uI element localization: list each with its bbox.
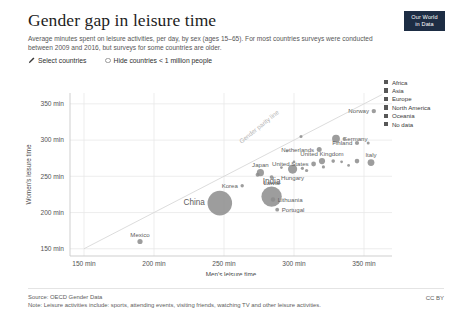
- legend-item-asia[interactable]: Asia: [384, 86, 444, 94]
- source-text: Source: OECD Gender Data: [28, 293, 428, 301]
- data-point[interactable]: [355, 141, 359, 145]
- legend-item-africa[interactable]: Africa: [384, 78, 444, 86]
- data-point[interactable]: [311, 162, 316, 167]
- data-point[interactable]: [367, 141, 370, 144]
- legend-item-oceania[interactable]: Oceania: [384, 112, 444, 120]
- legend-swatch-icon: [384, 114, 388, 118]
- note-text: Note: Leisure activities include: sports…: [28, 301, 428, 309]
- data-point[interactable]: [319, 158, 325, 164]
- data-point[interactable]: [331, 159, 335, 163]
- owid-logo-line1: Our World: [404, 14, 445, 21]
- data-point[interactable]: [208, 191, 233, 216]
- data-point-label: United States: [272, 160, 309, 167]
- data-point[interactable]: [347, 164, 350, 167]
- y-tick-label: 150 min: [41, 245, 65, 252]
- select-countries-label: Select countries: [38, 57, 86, 64]
- x-tick-label: 250 min: [212, 260, 236, 267]
- data-point[interactable]: [300, 135, 303, 138]
- x-tick-label: 300 min: [282, 260, 306, 267]
- chart-footer: Source: OECD Gender Data Note: Leisure a…: [28, 293, 428, 309]
- legend-swatch-icon: [384, 122, 388, 126]
- select-countries-button[interactable]: Select countries: [28, 57, 86, 64]
- data-point[interactable]: [275, 208, 279, 212]
- footer-divider: [28, 288, 444, 289]
- legend-item-no-data[interactable]: No data: [384, 120, 444, 128]
- svg-text:Gender parity line: Gender parity line: [238, 108, 281, 145]
- legend-swatch-icon: [384, 80, 388, 84]
- data-point[interactable]: [343, 137, 346, 140]
- data-point[interactable]: [293, 161, 296, 164]
- data-point[interactable]: [286, 150, 289, 153]
- data-point[interactable]: [280, 166, 283, 169]
- chart-controls: Select countries Hide countries < 1 mill…: [28, 57, 212, 64]
- data-point[interactable]: [305, 169, 308, 172]
- radio-icon: [105, 58, 110, 63]
- data-point[interactable]: [256, 173, 260, 177]
- y-axis-title: Women's leisure time: [25, 144, 32, 204]
- data-point-label: Lithuania: [278, 196, 303, 203]
- chart-page: Gender gap in leisure time Average minut…: [0, 0, 454, 319]
- legend-label: Oceania: [392, 112, 415, 119]
- page-title: Gender gap in leisure time: [28, 10, 388, 31]
- data-point-label: Korea: [222, 182, 239, 189]
- page-subtitle: Average minutes spent on leisure activit…: [28, 34, 380, 52]
- data-point-label: Norway: [348, 107, 370, 114]
- data-point[interactable]: [340, 160, 343, 163]
- legend-swatch-icon: [384, 88, 388, 92]
- gender-parity-line: [84, 94, 382, 248]
- data-point[interactable]: [137, 239, 142, 244]
- x-axis-title: Men's leisure time: [206, 271, 257, 276]
- legend-label: Africa: [392, 79, 408, 86]
- legend-swatch-icon: [384, 97, 388, 101]
- owid-logo-badge[interactable]: Our World in Data: [404, 11, 445, 31]
- data-point[interactable]: [301, 167, 304, 170]
- y-tick-label: 200 min: [41, 209, 65, 216]
- data-point-label: Hungary: [281, 174, 305, 181]
- hide-small-countries-label: Hide countries < 1 million people: [114, 57, 212, 64]
- legend-item-europe[interactable]: Europe: [384, 95, 444, 103]
- data-point[interactable]: [322, 165, 325, 168]
- legend: Africa Asia Europe North America Oceania…: [384, 78, 444, 128]
- pencil-icon: [28, 57, 35, 64]
- data-point[interactable]: [355, 159, 360, 164]
- y-tick-label: 350 min: [41, 100, 65, 107]
- legend-label: Asia: [392, 87, 404, 94]
- y-tick-label: 250 min: [41, 173, 65, 180]
- data-point[interactable]: [241, 184, 244, 187]
- chart-header: Gender gap in leisure time Average minut…: [28, 10, 388, 52]
- data-point-label: Latvia: [263, 179, 280, 186]
- data-point-label: Japan: [252, 161, 269, 168]
- data-point-label: Finland: [332, 139, 352, 146]
- parity-line-annotation: Gender parity line: [238, 108, 281, 145]
- data-point-label: Italy: [365, 151, 377, 158]
- legend-label: Europe: [392, 95, 412, 102]
- data-point[interactable]: [271, 197, 275, 201]
- x-tick-label: 200 min: [142, 260, 166, 267]
- data-point-label: Portugal: [282, 206, 305, 213]
- data-point-label: Mexico: [130, 231, 150, 238]
- x-tick-label: 150 min: [72, 260, 96, 267]
- legend-label: No data: [392, 121, 413, 128]
- data-point[interactable]: [372, 109, 376, 113]
- legend-swatch-icon: [384, 105, 388, 109]
- data-point[interactable]: [317, 147, 322, 152]
- legend-label: North America: [392, 104, 431, 111]
- x-tick-label: 350 min: [352, 260, 376, 267]
- license-text[interactable]: CC BY: [426, 295, 444, 301]
- data-point-label: China: [183, 198, 205, 207]
- data-point[interactable]: [368, 159, 375, 166]
- y-tick-label: 300 min: [41, 136, 65, 143]
- owid-logo-line2: in Data: [404, 21, 445, 28]
- legend-item-north-america[interactable]: North America: [384, 103, 444, 111]
- hide-small-countries-toggle[interactable]: Hide countries < 1 million people: [105, 57, 212, 64]
